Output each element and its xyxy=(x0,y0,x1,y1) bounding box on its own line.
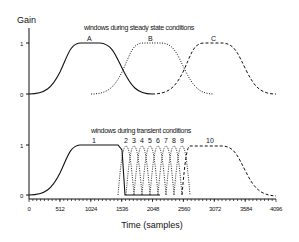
window-label-2: 2 xyxy=(124,137,128,144)
window-label-6: 6 xyxy=(156,137,160,144)
window-4-curve xyxy=(134,146,150,195)
window-6-curve xyxy=(150,146,166,195)
window-label-3: 3 xyxy=(132,137,136,144)
y-tick-label-bottom-1: 1 xyxy=(20,143,24,149)
window-5-curve xyxy=(142,146,158,195)
bottom-panel-title: windows during transient conditions xyxy=(90,127,192,135)
x-tick-3072: 3072 xyxy=(209,206,222,212)
window-a-curve xyxy=(29,43,152,94)
x-tick-2560: 2560 xyxy=(178,206,191,212)
x-tick-1024: 1024 xyxy=(85,206,98,212)
window-gain-chart: Gain 1 0 1 0 windows during steady state… xyxy=(0,0,299,242)
x-tick-labels: 0 512 1024 1536 2048 2560 3072 3584 4096 xyxy=(27,206,283,212)
x-axis-label: Time (samples) xyxy=(121,220,183,230)
window-c-curve xyxy=(152,43,276,94)
y-tick-label-top-0: 0 xyxy=(20,92,24,98)
window-label-7: 7 xyxy=(164,137,168,144)
window-label-a: A xyxy=(87,35,92,42)
window-label-4: 4 xyxy=(140,137,144,144)
window-label-10: 10 xyxy=(206,137,214,144)
x-tick-2048: 2048 xyxy=(147,206,160,212)
window-label-5: 5 xyxy=(148,137,152,144)
y-axis-label: Gain xyxy=(17,15,36,25)
window-b-curve xyxy=(91,43,214,94)
window-9-curve xyxy=(174,146,190,195)
window-8-curve xyxy=(166,146,182,195)
y-tick-label-top-1: 1 xyxy=(20,41,24,47)
top-panel-title: windows during steady state conditions xyxy=(83,24,195,32)
x-tick-4096: 4096 xyxy=(270,206,283,212)
window-label-8: 8 xyxy=(172,137,176,144)
window-10-curve xyxy=(182,146,276,196)
window-label-c: C xyxy=(211,35,216,42)
short-windows xyxy=(118,146,190,195)
x-tick-3584: 3584 xyxy=(240,206,253,212)
y-tick-label-bottom-0: 0 xyxy=(20,193,24,199)
window-7-curve xyxy=(158,146,174,195)
window-label-1: 1 xyxy=(92,137,96,144)
x-tick-0: 0 xyxy=(27,206,31,212)
x-tick-1536: 1536 xyxy=(116,206,129,212)
window-2-curve xyxy=(118,146,134,195)
window-3-curve xyxy=(126,146,142,195)
window-1-curve xyxy=(29,145,160,195)
x-tick-512: 512 xyxy=(55,206,65,212)
window-label-b: B xyxy=(148,35,153,42)
window-label-9: 9 xyxy=(180,137,184,144)
